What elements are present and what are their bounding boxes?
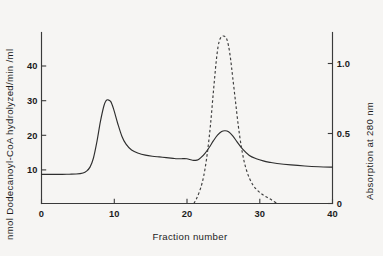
- y-right-tick-label: 1.0: [337, 59, 350, 69]
- x-tick-label: 10: [109, 209, 120, 219]
- y-axis-right-tick-labels: 0 0.5 1.0: [337, 59, 350, 209]
- x-axis-title: Fraction number: [152, 231, 228, 242]
- y-axis-right-ticks: [328, 64, 333, 204]
- y-tick-label: 40: [27, 61, 38, 71]
- figure-container: 10 20 30 40 0 10 20 30 40 0 0.5 1.0 Frac…: [0, 0, 383, 256]
- x-tick-label: 30: [255, 209, 266, 219]
- y-right-tick-label: 0: [337, 199, 342, 209]
- x-axis-tick-labels: 0 10 20 30 40: [39, 209, 338, 219]
- series-line-hydrolase-activity: [42, 100, 333, 175]
- x-tick-label: 0: [39, 209, 44, 219]
- y-axis-title-right: Absorption at 280 nm: [364, 102, 375, 200]
- series-line-absorption: [194, 36, 277, 204]
- y-right-tick-label: 0.5: [337, 129, 350, 139]
- y-axis-left-ticks: [42, 66, 47, 170]
- line-chart: 10 20 30 40 0 10 20 30 40 0 0.5 1.0 Frac…: [0, 0, 383, 256]
- y-tick-label: 30: [27, 96, 38, 106]
- y-axis-left-tick-labels: 10 20 30 40: [27, 61, 38, 175]
- x-tick-label: 40: [327, 209, 338, 219]
- y-tick-label: 10: [27, 165, 38, 175]
- y-axis-title-left: nmol Dodecanoyl-CoA hydrolyzed/min /ml: [4, 49, 15, 240]
- y-tick-label: 20: [27, 131, 38, 141]
- x-axis-ticks: [42, 199, 333, 204]
- axes-group: [42, 33, 333, 204]
- x-tick-label: 20: [182, 209, 193, 219]
